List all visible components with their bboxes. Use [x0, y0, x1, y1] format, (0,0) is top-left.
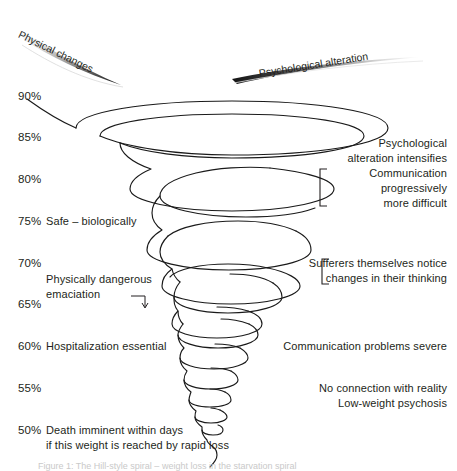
emaciation-elbow-arrow: [131, 296, 148, 308]
axis-tick-65: 65%: [18, 298, 41, 312]
axis-tick-50: 50%: [18, 424, 41, 438]
wedge-label-physical-changes: Physical changes: [17, 28, 96, 75]
left-annotation-death-line1: Death imminent within days: [46, 424, 183, 438]
right-annotation-psych-intensifies-line2: alteration intensifies: [0, 152, 447, 166]
right-annotation-communication-line3: more difficult: [0, 197, 447, 211]
right-annotation-communication-line1: Communication: [0, 167, 447, 181]
wedge-label-psychological-alteration: Psychological alteration: [258, 50, 369, 79]
right-annotation-psychosis-line1: No connection with reality: [0, 382, 447, 396]
right-annotation-communication-line2: progressively: [0, 182, 447, 196]
right-annotation-communication-severe: Communication problems severe: [0, 340, 447, 354]
right-annotation-psychosis-line2: Low-weight psychosis: [0, 397, 447, 411]
figure-canvas: Physical changes Psychological alteratio…: [0, 0, 457, 471]
figure-caption: Figure 1: The Hill-style spiral – weight…: [38, 461, 296, 471]
axis-tick-90: 90%: [18, 90, 41, 104]
left-annotation-death-line2: if this weight is reached by rapid loss: [46, 439, 229, 453]
left-annotation-emaciation-line2: emaciation: [46, 288, 100, 302]
right-annotation-psych-intensifies-line1: Psychological: [0, 137, 447, 151]
left-annotation-safe: Safe – biologically: [46, 215, 137, 229]
right-annotation-sufferers-line2: changes in their thinking: [0, 272, 447, 286]
right-annotation-sufferers-line1: Sufferers themselves notice: [0, 257, 447, 271]
axis-tick-75: 75%: [18, 215, 41, 229]
